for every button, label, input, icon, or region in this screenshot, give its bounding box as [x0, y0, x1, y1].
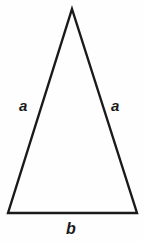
- geometry-figure: a a b: [0, 0, 143, 242]
- isosceles-triangle-svg: [0, 0, 143, 242]
- side-label-a-right: a: [111, 98, 119, 113]
- side-label-a-left: a: [19, 98, 27, 113]
- base-label-b: b: [66, 221, 76, 237]
